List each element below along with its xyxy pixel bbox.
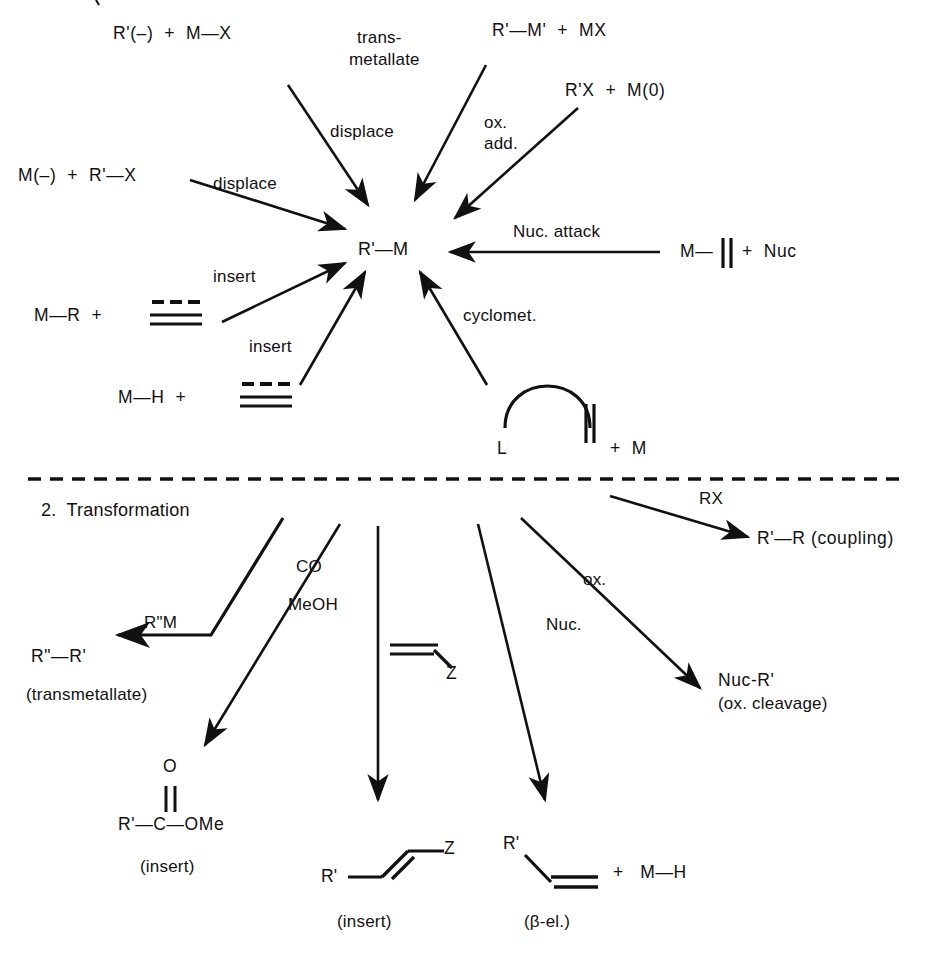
ligand-arc-glyph — [505, 386, 594, 443]
product-transmetallate: R"—R' — [31, 646, 86, 667]
reactant-organohalide-metal-zero: R'X + M(0) — [565, 80, 666, 101]
label-ox-add-line2: add. — [484, 134, 518, 154]
arrow-ox-add — [455, 108, 578, 218]
product-nuc-r: Nuc-R' — [718, 670, 775, 691]
caption-insert-ester: (insert) — [140, 857, 195, 877]
arrow-rx-coupling — [610, 496, 748, 537]
label-r-double-prime-m: R"M — [144, 613, 177, 633]
reactant-metal-alkene: M— — [680, 241, 713, 262]
reaction-scheme-diagram: R'(–) + M—X trans- metallate R'—M' + MX … — [0, 0, 931, 958]
reactant-ligand-L: L — [497, 438, 507, 459]
caption-insert-alkene: (insert) — [337, 912, 392, 932]
caption-transmetallate: (transmetallate) — [26, 685, 147, 705]
reactant-plus-metal: + M — [610, 438, 647, 459]
label-meoh: MeOH — [288, 595, 338, 615]
label-insert-lower: insert — [249, 337, 292, 357]
product-alkene-r-label: R' — [321, 866, 337, 887]
product-alkene-z-label: Z — [444, 838, 455, 859]
arrow-transmetallate — [415, 65, 486, 200]
label-displace-top: displace — [330, 122, 394, 142]
substrate-alkene-substituent-z: Z — [446, 663, 457, 684]
vertical-alkene-glyph-nuc — [723, 238, 731, 268]
alkyne-symbol-lower — [240, 384, 292, 406]
reactant-nucleophile: + Nuc — [742, 241, 797, 262]
reactant-metalate-organohalide: M(–) + R'—X — [18, 165, 137, 186]
arrow-cyclomet — [420, 272, 487, 385]
label-ox: ox. — [583, 570, 606, 590]
arrow-transmetallate-product — [118, 518, 283, 635]
arrow-ox-nuc-cleavage — [521, 518, 700, 688]
product-beta-el-r-label: R' — [503, 833, 519, 854]
label-transmetallate-line1: trans- — [357, 28, 402, 48]
label-rx: RX — [699, 489, 723, 509]
carbonyl-double-bond — [166, 786, 175, 812]
product-terminal-alkene-glyph — [525, 855, 598, 887]
product-coupling: R'—R (coupling) — [757, 528, 894, 549]
product-beta-el-metal-hydride: + M—H — [613, 862, 687, 883]
arrow-insert-lower — [300, 272, 365, 385]
arrow-beta-elimination — [478, 524, 545, 800]
label-displace-left: displace — [213, 174, 277, 194]
cropped-top-mark — [96, 0, 99, 5]
alkene-z-substrate-glyph — [390, 645, 452, 668]
reactant-metal-alkyl-plus-alkene: M—R + — [34, 305, 102, 326]
label-transmetallate-line2: metallate — [349, 50, 420, 70]
label-ox-add-line1: ox. — [484, 113, 507, 133]
caption-beta-elimination: (β-el.) — [524, 912, 570, 932]
product-alkene-z-glyph — [348, 851, 444, 879]
center-node-organometal: R'—M — [358, 239, 408, 260]
product-ester-carbonyl-oxygen: O — [163, 756, 177, 777]
reactant-organometal-prime: R'—M' + MX — [492, 20, 607, 41]
reactant-metal-hydride-plus-alkyne: M—H + — [118, 387, 186, 408]
arrow-displace-top — [288, 85, 368, 205]
alkene-symbol-upper — [150, 302, 202, 324]
label-nuc-attack: Nuc. attack — [513, 222, 600, 242]
caption-ox-cleavage: (ox. cleavage) — [718, 694, 828, 714]
label-insert-upper: insert — [213, 267, 256, 287]
label-cyclomet: cyclomet. — [463, 306, 537, 326]
label-co: CO — [296, 557, 322, 577]
reactant-carbanion-metal-halide: R'(–) + M—X — [113, 23, 232, 44]
label-nuc: Nuc. — [546, 615, 582, 635]
section-title-transformation: 2. Transformation — [41, 500, 190, 521]
product-ester-main: R'—C—OMe — [118, 814, 224, 835]
